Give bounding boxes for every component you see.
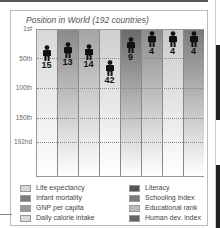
rank-label: 4	[142, 46, 162, 56]
person-icon	[83, 44, 95, 60]
top-border	[0, 0, 208, 2]
legend-swatch	[129, 215, 140, 222]
legend-swatch	[129, 185, 140, 192]
rank-label: 14	[79, 59, 99, 69]
right-edge-block	[216, 45, 220, 120]
legend-swatch	[20, 215, 31, 222]
legend-swatch	[129, 205, 140, 212]
legend-item: Schooling index	[129, 194, 194, 203]
gridline	[37, 88, 203, 89]
legend-swatch	[129, 195, 140, 202]
person-icon	[41, 45, 53, 61]
legend-item: Infant mortality	[20, 194, 82, 203]
rank-label: 13	[58, 57, 78, 67]
rank-label: 15	[37, 60, 57, 70]
legend-swatch	[20, 185, 31, 192]
gridline	[37, 118, 203, 119]
legend-label: GNP per capita	[36, 204, 84, 211]
right-edge-block	[216, 165, 220, 228]
y-tick-label: 1st	[10, 25, 32, 32]
legend-item: GNP per capita	[20, 204, 84, 213]
bar-daily-calorie-intake	[100, 30, 121, 176]
legend-label: Schooling index	[145, 194, 194, 201]
person-icon	[188, 31, 200, 47]
left-rule	[0, 214, 12, 215]
legend-item: Literacy	[129, 184, 170, 193]
legend-item: Daily calorie intake	[20, 214, 95, 223]
person-icon	[146, 31, 158, 47]
legend-label: Daily calorie intake	[36, 214, 95, 221]
legend-swatch	[20, 205, 31, 212]
gridline	[37, 142, 203, 143]
person-icon	[62, 42, 74, 58]
rank-label: 4	[163, 46, 183, 56]
person-icon	[167, 31, 179, 47]
y-tick-label: 100th	[10, 84, 32, 91]
legend-label: Life expectancy	[36, 184, 85, 191]
legend-label: Infant mortality	[36, 194, 82, 201]
legend-item: Life expectancy	[20, 184, 85, 193]
legend-item: Educational rank	[129, 204, 197, 213]
legend-label: Educational rank	[145, 204, 197, 211]
y-tick-label: 192nd	[10, 138, 32, 145]
rank-label: 9	[121, 52, 141, 62]
legend-label: Human dev. index	[145, 214, 201, 221]
person-icon	[104, 60, 116, 76]
rank-label: 42	[100, 75, 120, 85]
rank-label: 4	[184, 46, 204, 56]
y-tick-label: 150th	[10, 114, 32, 121]
legend-item: Human dev. index	[129, 214, 201, 223]
y-tick-label: 50th	[10, 55, 32, 62]
chart-title: Position in World (192 countries)	[26, 15, 149, 25]
legend-label: Literacy	[145, 184, 170, 191]
legend-swatch	[20, 195, 31, 202]
person-icon	[125, 37, 137, 53]
